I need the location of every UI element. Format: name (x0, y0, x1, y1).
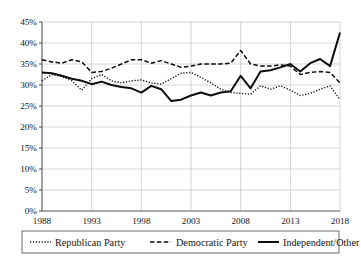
x-tick-label: 2003 (182, 216, 201, 226)
legend-label: Republican Party (55, 237, 126, 248)
y-tick-label: 0% (25, 206, 38, 216)
y-tick-label: 25% (20, 101, 37, 111)
y-axis-tick-labels: 0%5%10%15%20%25%30%35%40%45% (20, 17, 42, 216)
chart-svg: 0%5%10%15%20%25%30%35%40%45% 19881993199… (0, 0, 361, 264)
chart-legend: Republican PartyDemocratic PartyIndepend… (22, 231, 360, 253)
y-tick-label: 30% (20, 80, 37, 90)
y-tick-label: 45% (20, 17, 37, 27)
x-tick-label: 1993 (82, 216, 101, 226)
x-tick-label: 2013 (281, 216, 300, 226)
y-tick-label: 5% (25, 185, 38, 195)
x-tick-label: 1998 (132, 216, 151, 226)
x-axis-tick-labels: 1988199319982003200820132018 (33, 216, 350, 226)
x-tick-label: 1988 (33, 216, 52, 226)
x-tick-label: 2018 (331, 216, 350, 226)
y-tick-label: 10% (20, 164, 37, 174)
y-tick-label: 40% (20, 38, 37, 48)
y-tick-label: 15% (20, 143, 37, 153)
y-tick-label: 35% (20, 59, 37, 69)
party-identification-chart: 0%5%10%15%20%25%30%35%40%45% 19881993199… (0, 0, 361, 264)
legend-label: Independent/Other (283, 237, 360, 248)
legend-label: Democratic Party (176, 237, 248, 248)
x-tick-label: 2008 (231, 216, 250, 226)
gridlines-group (42, 22, 340, 211)
y-tick-label: 20% (20, 122, 37, 132)
